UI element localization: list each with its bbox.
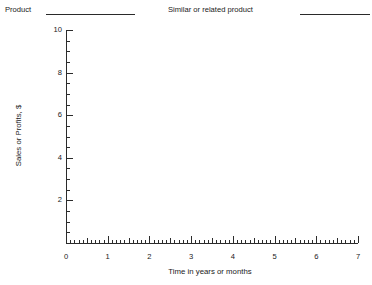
x-tick-minor [195,240,196,243]
x-tick-minor [320,240,321,243]
x-tick-minor [124,240,125,243]
y-tick-label: 2 [40,196,62,204]
product-blank-field[interactable] [46,14,135,15]
y-tick-minor [67,126,70,127]
x-tick-minor [70,240,71,243]
x-tick-minor [179,240,180,243]
y-axis-title: Sales or Profits, $ [14,86,23,186]
x-tick-major [275,236,276,243]
y-tick-label: 6 [40,111,62,119]
y-tick-label: 8 [40,69,62,77]
x-tick-minor [287,240,288,243]
x-tick-minor [116,240,117,243]
plot-area[interactable] [67,30,358,243]
x-tick-minor [333,240,334,243]
y-tick-major [67,115,73,116]
y-tick-label: 10 [40,26,62,34]
x-tick-minor [225,240,226,243]
y-tick-major [67,73,73,74]
x-tick-minor [304,240,305,243]
x-tick-minor [341,240,342,243]
y-tick-minor [67,41,70,42]
x-tick-minor [312,240,313,243]
x-tick-minor [183,240,184,243]
x-tick-minor [120,240,121,243]
x-tick-label: 6 [306,253,326,261]
x-tick-minor [350,240,351,243]
x-tick-minor [216,240,217,243]
similar-product-label: Similar or related product [168,5,253,15]
x-tick-major [149,236,150,243]
x-tick-minor [308,240,309,243]
y-tick-minor [67,179,70,180]
x-tick-minor [141,240,142,243]
x-tick-minor [245,240,246,243]
x-tick-major [66,236,67,243]
y-tick-major [67,158,73,159]
x-tick-minor [229,240,230,243]
x-tick-minor [83,240,84,243]
x-tick-minor [329,240,330,243]
y-tick-minor [67,211,70,212]
x-tick-minor [129,238,130,243]
x-tick-minor [279,240,280,243]
x-tick-minor [354,240,355,243]
x-tick-minor [250,240,251,243]
x-tick-minor [162,240,163,243]
y-tick-major [67,30,73,31]
product-label: Product [5,5,31,15]
x-tick-minor [91,240,92,243]
x-tick-minor [145,240,146,243]
x-tick-minor [345,240,346,243]
x-tick-minor [204,240,205,243]
x-tick-minor [295,238,296,243]
x-tick-minor [270,240,271,243]
y-tick-minor [67,137,70,138]
origin-tick-label: 0 [56,253,76,261]
x-tick-minor [74,240,75,243]
x-tick-minor [241,240,242,243]
x-tick-minor [300,240,301,243]
x-tick-label: 7 [348,253,368,261]
y-tick-minor [67,232,70,233]
x-tick-minor [266,240,267,243]
x-tick-minor [154,240,155,243]
x-tick-minor [95,240,96,243]
x-tick-label: 5 [265,253,285,261]
x-tick-minor [187,240,188,243]
y-tick-minor [67,62,70,63]
x-tick-major [358,236,359,243]
x-tick-minor [212,238,213,243]
x-tick-minor [254,238,255,243]
x-tick-minor [283,240,284,243]
x-tick-minor [337,238,338,243]
x-tick-minor [99,240,100,243]
x-tick-label: 1 [98,253,118,261]
x-tick-label: 4 [223,253,243,261]
x-tick-minor [79,240,80,243]
x-tick-minor [262,240,263,243]
x-tick-major [316,236,317,243]
x-axis-title: Time in years or months [130,267,290,276]
x-tick-minor [104,240,105,243]
x-tick-minor [291,240,292,243]
x-tick-label: 3 [181,253,201,261]
y-tick-minor [67,147,70,148]
y-tick-minor [67,51,70,52]
x-tick-minor [258,240,259,243]
y-tick-minor [67,83,70,84]
x-tick-minor [199,240,200,243]
y-tick-minor [67,222,70,223]
x-tick-major [108,236,109,243]
x-tick-minor [174,240,175,243]
x-tick-minor [87,238,88,243]
y-tick-minor [67,105,70,106]
x-tick-minor [112,240,113,243]
x-tick-minor [166,240,167,243]
x-tick-minor [208,240,209,243]
x-tick-minor [170,238,171,243]
similar-product-blank-field[interactable] [300,14,370,15]
y-tick-minor [67,190,70,191]
x-tick-minor [220,240,221,243]
worksheet-header: Product Similar or related product [0,0,372,20]
